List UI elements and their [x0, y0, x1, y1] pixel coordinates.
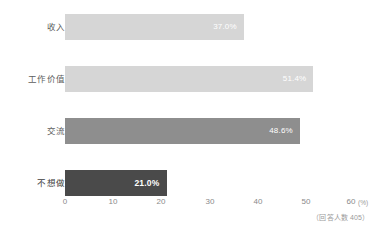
bar-chart: 收入 37.0% 工作价值 51.4% 交流 48.6%: [0, 0, 377, 245]
bar-value-label: 21.0%: [134, 179, 159, 188]
x-axis-tick: 30: [206, 198, 215, 206]
x-axis-tick: 50: [302, 198, 311, 206]
bar-track: 48.6%: [65, 118, 355, 144]
bar-track: 37.0%: [65, 14, 355, 40]
x-axis-unit-label: (%): [358, 200, 368, 207]
bar-row: 不想做 21.0%: [0, 170, 377, 196]
bar-fill-3: 21.0%: [65, 170, 167, 196]
bar-track: 51.4%: [65, 66, 355, 92]
bar-fill-1: 51.4%: [65, 66, 313, 92]
x-axis-tick: 60: [347, 198, 356, 206]
bar-row: 收入 37.0%: [0, 14, 377, 40]
x-axis-tick: 0: [63, 198, 67, 206]
bar-category-label: 收入: [0, 23, 65, 32]
bar-fill-2: 48.6%: [65, 118, 300, 144]
x-axis-tick: 40: [254, 198, 263, 206]
bar-value-label: 48.6%: [269, 127, 293, 135]
x-axis-tick: 20: [157, 198, 166, 206]
bar-category-label: 不想做: [0, 179, 65, 188]
x-axis-tick: 10: [109, 198, 118, 206]
bar-row: 工作价值 51.4%: [0, 66, 377, 92]
bar-fill-0: 37.0%: [65, 14, 244, 40]
bar-category-label: 交流: [0, 127, 65, 136]
bar-row: 交流 48.6%: [0, 118, 377, 144]
bar-category-label: 工作价值: [0, 75, 65, 84]
bar-value-label: 51.4%: [283, 75, 307, 83]
bar-value-label: 37.0%: [213, 23, 237, 31]
response-count-note: （回答人数 405）: [312, 214, 369, 221]
bar-track: 21.0%: [65, 170, 355, 196]
plot-area: 收入 37.0% 工作价值 51.4% 交流 48.6%: [0, 0, 377, 200]
